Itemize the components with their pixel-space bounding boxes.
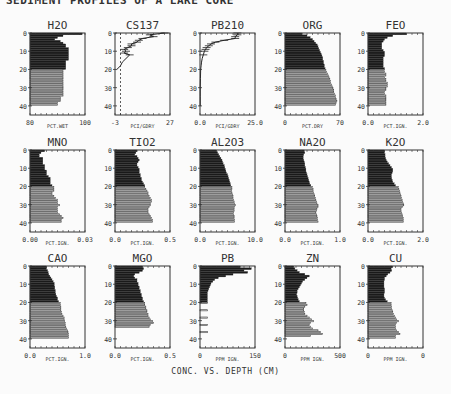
bar xyxy=(30,71,63,72)
bar xyxy=(30,210,58,211)
y-tick-label: 10 xyxy=(274,48,282,56)
bar xyxy=(200,176,228,178)
bar xyxy=(115,165,137,167)
y-tick-label: 0 xyxy=(193,30,197,38)
x-axis-unit-label: PCI/GDRY xyxy=(130,123,154,129)
bar xyxy=(368,49,383,51)
y-tick-label: 20 xyxy=(274,66,282,74)
y-tick-label: 30 xyxy=(104,85,112,93)
bar xyxy=(285,196,315,197)
bar xyxy=(200,279,215,281)
x-min-label: 0 xyxy=(366,352,370,360)
bar xyxy=(368,163,389,165)
x-axis-unit-label: PCT.IGN. xyxy=(130,356,154,362)
panel-grid: H2O01020304080100PCT.WETCS137010203040-3… xyxy=(0,0,451,394)
bar xyxy=(30,46,66,48)
y-tick-label: 40 xyxy=(274,220,282,228)
bar xyxy=(368,64,383,66)
bar xyxy=(285,288,298,290)
bar xyxy=(285,206,318,207)
bar xyxy=(200,299,207,301)
y-tick-label: 0 xyxy=(278,263,282,271)
bar xyxy=(368,324,396,325)
bar xyxy=(368,271,390,273)
x-min-label: 0.0 xyxy=(194,236,206,244)
panel-title: NA2O xyxy=(299,136,326,149)
bar xyxy=(30,295,56,297)
bar xyxy=(285,201,316,202)
panel-title: FEO xyxy=(386,19,406,32)
bar xyxy=(285,217,317,218)
bar xyxy=(30,73,63,74)
bar xyxy=(30,277,51,279)
bar xyxy=(30,192,52,193)
y-tick-label: 20 xyxy=(189,183,197,191)
bar xyxy=(30,172,47,174)
bar xyxy=(30,181,50,183)
y-tick-label: 0 xyxy=(193,263,197,271)
bar xyxy=(30,159,43,161)
bar xyxy=(115,308,146,309)
bar xyxy=(30,268,47,270)
bar xyxy=(30,216,61,217)
bar xyxy=(30,206,58,207)
bar xyxy=(368,188,399,189)
panel-pb: PB0102030400150PPM IGN. xyxy=(189,252,261,362)
bar xyxy=(30,93,63,94)
bar xyxy=(368,328,396,329)
x-max-label: 25.0 xyxy=(247,119,263,127)
bar xyxy=(368,219,403,220)
bar xyxy=(30,66,66,68)
bar xyxy=(30,155,39,157)
bar xyxy=(368,197,402,198)
bar xyxy=(368,326,396,327)
bar xyxy=(285,212,316,213)
bar xyxy=(115,286,139,288)
bar xyxy=(368,337,396,338)
y-tick-label: 30 xyxy=(274,318,282,326)
panel-title: CU xyxy=(389,252,402,265)
x-axis-unit-label: PCT.IGN. xyxy=(45,356,69,362)
x-min-label: 0.0 xyxy=(194,119,206,127)
bar xyxy=(115,271,139,273)
bar xyxy=(368,174,391,176)
bar xyxy=(200,165,224,167)
bar xyxy=(30,199,58,200)
panel-title: K2O xyxy=(386,136,406,149)
bar xyxy=(285,152,305,154)
bar xyxy=(115,155,137,157)
bar xyxy=(285,159,304,161)
bar xyxy=(30,69,63,70)
bar xyxy=(115,159,139,161)
bar xyxy=(368,44,382,46)
bar xyxy=(285,77,329,78)
y-tick-label: 0 xyxy=(23,30,27,38)
bar xyxy=(285,57,323,59)
bar xyxy=(285,286,299,288)
bar xyxy=(30,104,58,105)
y-tick-label: 40 xyxy=(189,103,197,111)
bar xyxy=(285,312,304,313)
bar xyxy=(285,192,314,193)
bar xyxy=(30,330,67,331)
bar xyxy=(200,157,221,159)
bar xyxy=(115,161,138,163)
bar xyxy=(285,277,307,279)
panel-title: ZN xyxy=(306,252,319,265)
bar xyxy=(200,273,233,275)
bar xyxy=(285,89,334,90)
bar xyxy=(30,88,63,89)
x-axis-unit-label: PCT.IGN. xyxy=(130,240,154,246)
bar xyxy=(285,66,324,68)
bar xyxy=(285,102,336,103)
x-min-label: 0.0 xyxy=(24,352,36,360)
x-max-label: 500 xyxy=(334,352,346,360)
y-tick-label: 30 xyxy=(357,202,365,210)
bar xyxy=(285,203,317,204)
bar xyxy=(368,194,400,195)
bar xyxy=(30,279,52,281)
bar xyxy=(200,152,218,154)
y-tick-label: 30 xyxy=(357,318,365,326)
bar xyxy=(368,310,392,311)
bar xyxy=(368,73,386,74)
